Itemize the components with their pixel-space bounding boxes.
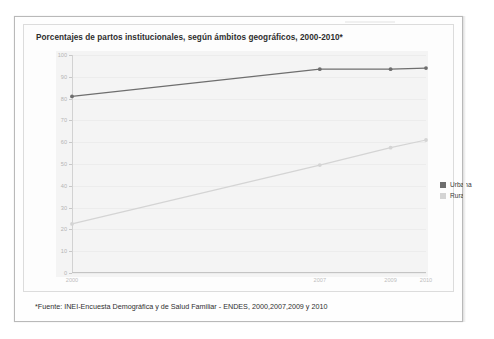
data-point-urbana [389, 67, 393, 71]
legend-item-rural: Rural [440, 192, 494, 199]
series-plot [72, 55, 426, 273]
data-point-rural [424, 138, 428, 142]
data-point-rural [389, 146, 393, 150]
y-axis-tick-label: 60 [61, 139, 67, 145]
x-axis-tick-label: 2007 [314, 277, 326, 283]
chart-card: Porcentajes de partos institucionales, s… [23, 24, 454, 292]
plot-area: 0102030405060708090100 2000200720092010 [72, 55, 426, 273]
scan-page-edge [463, 16, 466, 322]
x-axis-tick-label: 2009 [384, 277, 396, 283]
chart-title: Porcentajes de partos institucionales, s… [36, 33, 343, 42]
y-axis-tick-label: 0 [64, 270, 67, 276]
grid-line [72, 273, 426, 274]
y-axis-tick-label: 40 [61, 183, 67, 189]
legend-swatch-icon [440, 182, 446, 188]
legend-swatch-icon [440, 193, 446, 199]
y-axis-tick-label: 20 [61, 226, 67, 232]
scanned-page-frame: Porcentajes de partos institucionales, s… [14, 16, 463, 322]
data-point-urbana [318, 67, 322, 71]
y-axis-tick [69, 273, 72, 274]
legend-label: Urbana [450, 181, 472, 188]
scan-artifact [345, 21, 395, 23]
data-point-urbana [70, 95, 74, 99]
y-axis-tick-label: 50 [61, 161, 67, 167]
chart-legend: UrbanaRural [440, 181, 494, 203]
series-line-rural [72, 140, 426, 224]
y-axis-tick-label: 10 [61, 248, 67, 254]
y-axis-tick-label: 100 [58, 52, 67, 58]
source-note: *Fuente: INEI-Encuesta Demográfica y de … [35, 302, 327, 311]
y-axis-tick-label: 90 [61, 74, 67, 80]
x-axis-tick-label: 2000 [66, 277, 78, 283]
data-point-urbana [424, 66, 428, 70]
data-point-rural [318, 163, 322, 167]
y-axis-tick-label: 80 [61, 96, 67, 102]
x-axis-tick-label: 2010 [420, 277, 432, 283]
y-axis-tick-label: 70 [61, 117, 67, 123]
y-axis-tick-label: 30 [61, 205, 67, 211]
data-point-rural [70, 222, 74, 226]
legend-item-urbana: Urbana [440, 181, 494, 188]
series-line-urbana [72, 68, 426, 96]
